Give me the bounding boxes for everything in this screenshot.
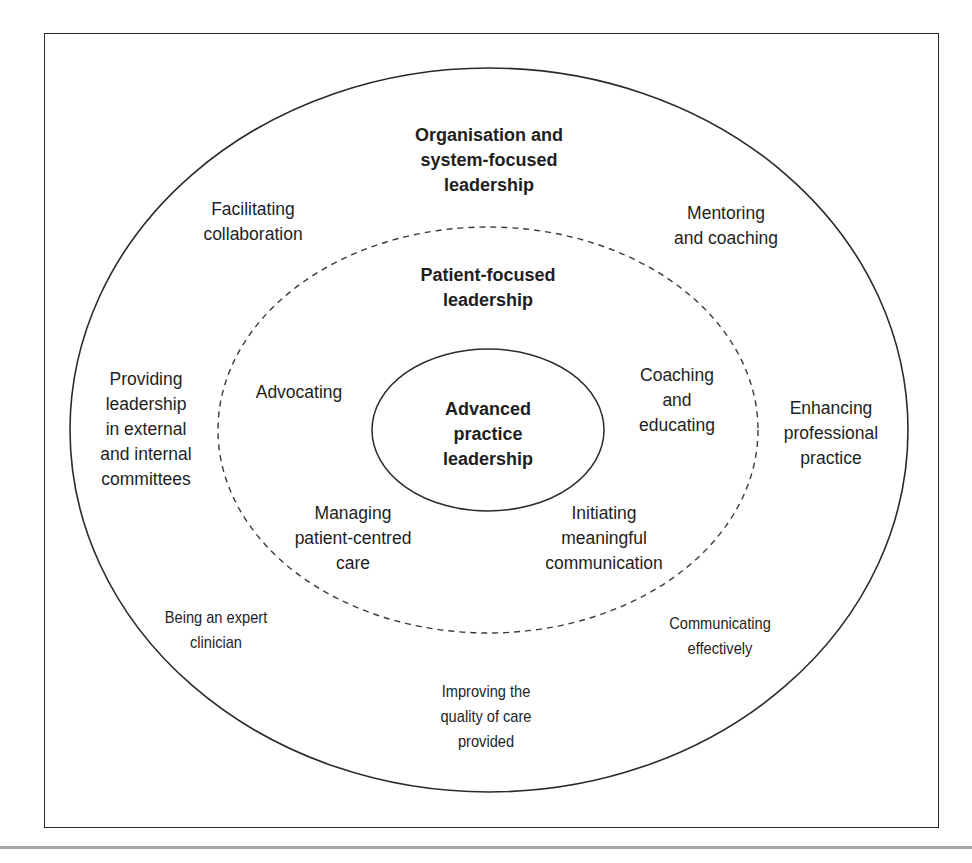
middle-item-managing-patient-centred-care: Managing patient-centred care bbox=[295, 501, 412, 576]
page-divider bbox=[0, 846, 972, 849]
outer-item-mentoring-coaching: Mentoring and coaching bbox=[674, 201, 778, 251]
outer-item-facilitating-collaboration: Facilitating collaboration bbox=[203, 197, 302, 247]
outer-item-communicating-effectively: Communicating effectively bbox=[669, 611, 771, 661]
outer-item-providing-leadership-committees: Providing leadership in external and int… bbox=[100, 367, 191, 492]
outer-item-improving-quality-of-care: Improving the quality of care provided bbox=[440, 679, 531, 754]
middle-item-initiating-meaningful-communication: Initiating meaningful communication bbox=[545, 501, 663, 576]
middle-item-coaching-educating: Coaching and educating bbox=[639, 363, 715, 438]
middle-ring-title: Patient-focused leadership bbox=[420, 263, 555, 313]
middle-item-advocating: Advocating bbox=[256, 380, 343, 405]
outer-item-enhancing-professional-practice: Enhancing professional practice bbox=[784, 396, 878, 471]
core-title: Advanced practice leadership bbox=[443, 397, 533, 472]
outer-ring-title: Organisation and system-focused leadersh… bbox=[415, 123, 563, 198]
outer-item-being-expert-clinician: Being an expert clinician bbox=[165, 605, 267, 655]
